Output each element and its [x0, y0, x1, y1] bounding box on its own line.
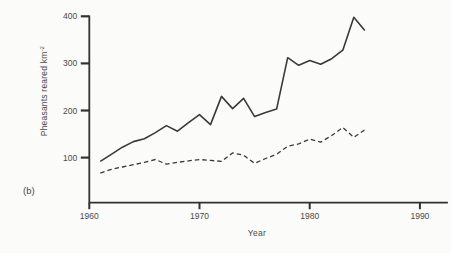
x-tick-label: 1990 [410, 211, 429, 221]
x-tick-label: 1980 [300, 211, 319, 221]
y-axis-title-exponent: -2 [39, 46, 45, 52]
x-tick-label: 1970 [190, 211, 209, 221]
y-tick-label: 400 [63, 11, 77, 21]
y-tick-label: 200 [63, 106, 77, 116]
axes [89, 16, 447, 202]
series-dashed [100, 128, 365, 174]
chart-figure: 1002003004001960197019801990 Pheasants r… [0, 0, 451, 253]
y-tick-label: 100 [63, 153, 77, 163]
y-tick-label: 300 [63, 58, 77, 68]
x-axis-title: Year [248, 228, 266, 238]
y-axis-title: Pheasants reared km-2 [39, 46, 50, 136]
y-axis-title-text: Pheasants reared km [39, 52, 49, 137]
line-chart: 1002003004001960197019801990 [0, 0, 451, 253]
x-tick-label: 1960 [80, 211, 99, 221]
figure-panel-label: (b) [23, 185, 35, 196]
